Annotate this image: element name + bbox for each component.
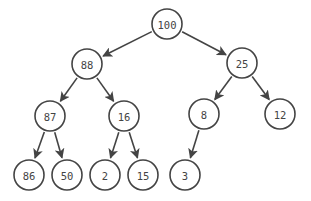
tree-node: 12 xyxy=(265,99,295,129)
edge-arrow-100-to-25 xyxy=(182,32,226,55)
node-label: 12 xyxy=(274,109,287,121)
node-label: 25 xyxy=(236,58,249,70)
heap-tree-diagram: 1008825871681286502153 xyxy=(0,0,311,201)
node-label: 15 xyxy=(137,170,150,182)
tree-node: 2 xyxy=(90,160,120,190)
edge-arrow-88-to-16 xyxy=(97,78,114,101)
tree-node: 15 xyxy=(128,160,158,190)
edge-arrow-8-to-3 xyxy=(190,130,199,158)
edge-arrow-25-to-12 xyxy=(252,77,269,100)
node-label: 3 xyxy=(182,170,188,182)
tree-node: 88 xyxy=(72,49,102,79)
edge-arrow-16-to-2 xyxy=(111,132,119,158)
node-label: 50 xyxy=(61,170,74,182)
node-label: 16 xyxy=(118,111,131,123)
node-label: 8 xyxy=(201,109,207,121)
tree-node: 8 xyxy=(189,99,219,129)
node-label: 100 xyxy=(158,19,177,31)
nodes-group: 1008825871681286502153 xyxy=(14,9,295,190)
edge-arrow-87-to-50 xyxy=(55,132,62,157)
node-label: 86 xyxy=(23,170,36,182)
edge-arrow-100-to-88 xyxy=(103,32,152,56)
tree-node: 86 xyxy=(14,160,44,190)
tree-node: 16 xyxy=(109,101,139,131)
tree-node: 87 xyxy=(35,101,65,131)
tree-node: 100 xyxy=(152,9,182,39)
edge-arrow-88-to-87 xyxy=(60,78,77,101)
edge-arrow-25-to-8 xyxy=(215,77,232,100)
edge-arrow-87-to-86 xyxy=(35,132,44,158)
tree-node: 25 xyxy=(227,48,257,78)
tree-node: 3 xyxy=(170,160,200,190)
node-label: 2 xyxy=(102,170,108,182)
tree-node: 50 xyxy=(52,160,82,190)
node-label: 87 xyxy=(44,111,57,123)
node-label: 88 xyxy=(81,59,94,71)
edge-arrow-16-to-15 xyxy=(129,132,137,158)
